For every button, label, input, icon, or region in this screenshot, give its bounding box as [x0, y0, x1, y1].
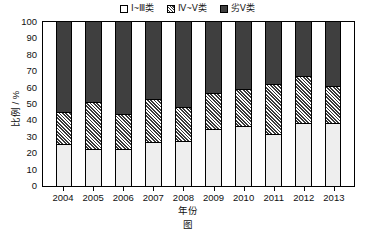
bar-segment-class-worse-5 — [296, 22, 311, 76]
legend-item-class-1-3: Ⅰ~Ⅲ类 — [120, 4, 154, 13]
bar-segment-class-worse-5 — [266, 22, 281, 84]
bar-segment-class-4-5 — [146, 99, 161, 143]
bar-segment-class-1-3 — [146, 143, 161, 186]
stacked-bar — [235, 22, 252, 186]
y-tick-label: 10 — [3, 165, 37, 175]
x-tick-mark — [214, 187, 215, 191]
y-tick-label: 30 — [3, 132, 37, 142]
x-tick-mark — [304, 187, 305, 191]
y-tick-label: 60 — [3, 83, 37, 93]
legend-label-class-4-5: Ⅳ~Ⅴ类 — [178, 4, 207, 13]
bar-segment-class-1-3 — [86, 150, 101, 186]
x-tick-label: 2006 — [108, 192, 138, 206]
bar-segment-class-1-3 — [116, 150, 131, 186]
bar-slot — [288, 22, 318, 186]
legend-label-class-worse-5: 劣Ⅴ类 — [231, 4, 255, 13]
stacked-bar — [175, 22, 192, 186]
x-tick-label: 2004 — [48, 192, 78, 206]
stacked-bar — [265, 22, 282, 186]
y-tick-label: 40 — [3, 116, 37, 126]
y-tick-label: 80 — [3, 50, 37, 60]
x-tick-mark — [93, 187, 94, 191]
bar-slot — [139, 22, 169, 186]
chart-figure: Ⅰ~Ⅲ类 Ⅳ~Ⅴ类 劣Ⅴ类 比例 / % 1009080706050403020… — [0, 0, 375, 235]
x-tick-mark — [183, 187, 184, 191]
legend-item-class-worse-5: 劣Ⅴ类 — [220, 4, 255, 13]
bar-slot — [258, 22, 288, 186]
x-tick-label: 2005 — [78, 192, 108, 206]
x-tick-mark — [153, 187, 154, 191]
bar-slot — [199, 22, 229, 186]
stacked-bar — [325, 22, 342, 186]
bar-segment-class-1-3 — [236, 127, 251, 186]
bar-segment-class-worse-5 — [236, 22, 251, 89]
bar-slot — [49, 22, 79, 186]
bar-slot — [318, 22, 348, 186]
bar-segment-class-4-5 — [176, 107, 191, 141]
bar-segment-class-1-3 — [176, 142, 191, 186]
bar-group — [43, 22, 354, 186]
bar-segment-class-4-5 — [206, 93, 221, 131]
x-tick-label: 2007 — [138, 192, 168, 206]
bar-segment-class-worse-5 — [176, 22, 191, 107]
x-tick-label: 2008 — [168, 192, 198, 206]
bar-segment-class-4-5 — [266, 84, 281, 135]
bar-slot — [228, 22, 258, 186]
bar-segment-class-worse-5 — [146, 22, 161, 99]
dark-square-icon — [220, 5, 228, 13]
y-tick-label: 90 — [3, 34, 37, 44]
bar-slot — [79, 22, 109, 186]
white-square-icon — [120, 5, 128, 13]
bar-segment-class-worse-5 — [206, 22, 221, 93]
bar-slot — [169, 22, 199, 186]
bar-segment-class-worse-5 — [326, 22, 341, 86]
x-tick-label: 2009 — [198, 192, 228, 206]
x-tick-mark — [244, 187, 245, 191]
stacked-bar — [115, 22, 132, 186]
x-tick-mark — [334, 187, 335, 191]
x-axis-labels: 2004200520062007200820092010201120122013 — [42, 192, 355, 206]
bar-segment-class-4-5 — [116, 114, 131, 150]
bar-segment-class-1-3 — [266, 135, 281, 186]
bar-segment-class-4-5 — [296, 76, 311, 124]
bar-segment-class-4-5 — [236, 89, 251, 127]
x-tick-mark — [63, 187, 64, 191]
x-tick-label: 2013 — [319, 192, 349, 206]
x-axis-title: 年份 — [0, 205, 375, 216]
bar-segment-class-4-5 — [57, 112, 72, 145]
stacked-bar — [295, 22, 312, 186]
y-tick-label: 70 — [3, 66, 37, 76]
stacked-bar — [205, 22, 222, 186]
legend-item-class-4-5: Ⅳ~Ⅴ类 — [167, 4, 207, 13]
bar-segment-class-1-3 — [296, 124, 311, 186]
y-axis: 比例 / % 1009080706050403020100 — [0, 21, 42, 187]
bar-segment-class-worse-5 — [116, 22, 131, 114]
bar-slot — [109, 22, 139, 186]
bar-segment-class-1-3 — [206, 130, 221, 186]
bar-segment-class-4-5 — [326, 86, 341, 124]
y-tick-label: 100 — [3, 17, 37, 27]
stacked-bar — [145, 22, 162, 186]
x-tick-mark — [123, 187, 124, 191]
y-tick-label: 50 — [3, 99, 37, 109]
stacked-bar — [85, 22, 102, 186]
bar-segment-class-worse-5 — [86, 22, 101, 102]
y-tick-label: 0 — [3, 181, 37, 191]
bar-segment-class-1-3 — [326, 124, 341, 186]
chart-legend: Ⅰ~Ⅲ类 Ⅳ~Ⅴ类 劣Ⅴ类 — [0, 1, 375, 16]
bar-segment-class-1-3 — [57, 145, 72, 186]
bar-segment-class-4-5 — [86, 102, 101, 150]
x-tick-label: 2012 — [289, 192, 319, 206]
y-tick-label: 20 — [3, 148, 37, 158]
bar-segment-class-worse-5 — [57, 22, 72, 112]
x-tick-label: 2011 — [259, 192, 289, 206]
hatched-square-icon — [167, 5, 175, 13]
x-tick-mark — [274, 187, 275, 191]
x-tick-label: 2010 — [229, 192, 259, 206]
figure-caption: 图 — [0, 219, 375, 231]
legend-label-class-1-3: Ⅰ~Ⅲ类 — [131, 4, 154, 13]
plot-area — [42, 21, 355, 187]
stacked-bar — [56, 22, 73, 186]
